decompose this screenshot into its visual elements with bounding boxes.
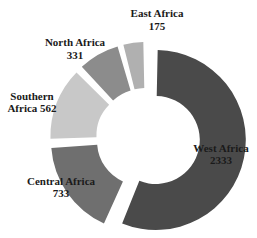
label-east-africa: East Africa 175 (131, 7, 184, 32)
label-southern-africa-value: Africa 562 (7, 102, 57, 114)
label-west-africa-value: 2333 (210, 154, 233, 166)
label-east-africa-name: East Africa (131, 7, 184, 19)
label-central-africa-value: 733 (53, 187, 70, 199)
donut-slices (50, 42, 245, 230)
label-west-africa-name: West Africa (193, 142, 249, 154)
donut-chart: West Africa 2333 Central Africa 733 Sout… (0, 0, 257, 238)
label-central-africa-name: Central Africa (27, 175, 96, 187)
label-southern-africa-name: Southern (10, 90, 53, 102)
label-east-africa-value: 175 (149, 20, 166, 32)
label-southern-africa: Southern Africa 562 (7, 90, 57, 114)
label-north-africa-value: 331 (67, 49, 84, 61)
label-north-africa-name: North Africa (45, 36, 106, 48)
